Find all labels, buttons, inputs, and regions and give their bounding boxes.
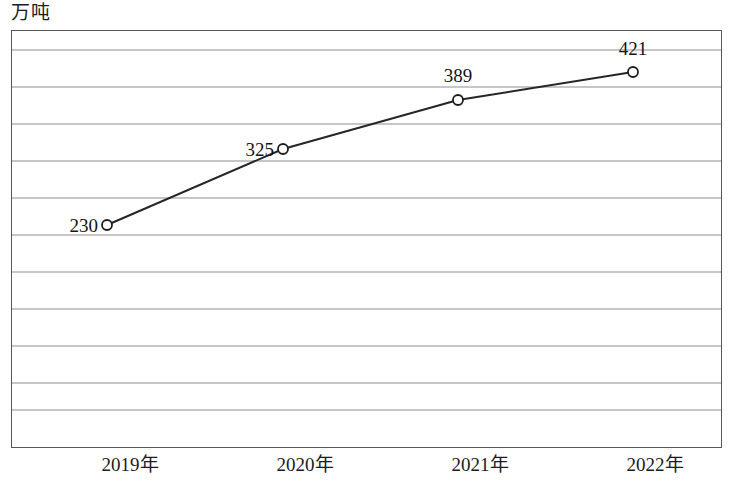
data-value-label: 389 (444, 65, 473, 87)
data-value-label: 325 (246, 139, 275, 161)
data-value-label: 421 (619, 38, 648, 60)
plot-area-frame (11, 30, 722, 448)
x-axis-label-4: 2022年 (627, 452, 684, 478)
data-value-label: 230 (70, 215, 99, 237)
line-chart-figure: 万吨 230325389421 2019年2020年2021年2022年 (0, 0, 735, 495)
y-axis-unit-label: 万吨 (11, 1, 50, 25)
x-axis-label-2: 2020年 (277, 452, 334, 478)
x-axis-label-1: 2019年 (102, 452, 159, 478)
x-axis-label-3: 2021年 (452, 452, 509, 478)
